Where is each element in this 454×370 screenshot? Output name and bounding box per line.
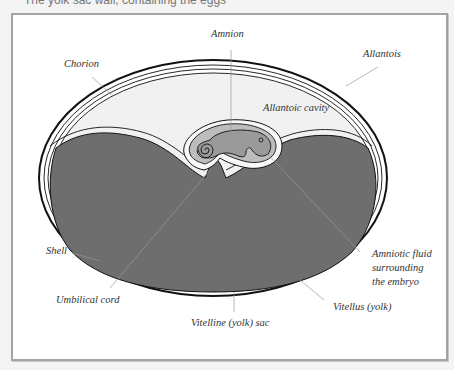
label-amnion: Amnion (211, 27, 244, 40)
label-amniotic-fluid-2: surrounding (372, 261, 424, 274)
leader-allantois (346, 67, 378, 86)
label-umbilical-cord: Umbilical cord (56, 293, 119, 306)
label-vitelline-sac: Vitelline (yolk) sac (191, 316, 270, 329)
label-allantois: Allantois (363, 47, 401, 60)
label-amniotic-fluid-1: Amniotic fluid (372, 247, 432, 260)
label-vitellus: Vitellus (yolk) (333, 300, 391, 313)
label-shell: Shell (46, 244, 67, 257)
label-allantoic-cavity: Allantoic cavity (263, 101, 329, 114)
label-chorion: Chorion (64, 57, 99, 70)
leader-vitellus (300, 280, 324, 300)
label-amniotic-fluid-3: the embryo (372, 275, 419, 288)
